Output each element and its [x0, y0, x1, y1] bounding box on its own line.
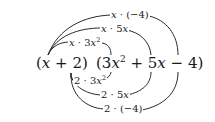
product-2-neg4: 2 · (−4)	[103, 103, 143, 114]
factor-left: (x + 2)	[36, 55, 88, 72]
product-x-5x: x · 5x	[100, 23, 129, 34]
product-x-neg4: x · (−4)	[110, 9, 150, 20]
factor-right: (3x2 + 5x − 4)	[96, 55, 203, 72]
product-2-3x2: 2 · 3x2	[73, 75, 107, 86]
product-x-3x2: x · 3x2	[68, 37, 101, 48]
product-2-5x: 2 · 5x	[100, 89, 130, 100]
foil-diagram: x · 3x2 x · 5x x · (−4) (x + 2) (3x2 + 5…	[0, 0, 215, 122]
